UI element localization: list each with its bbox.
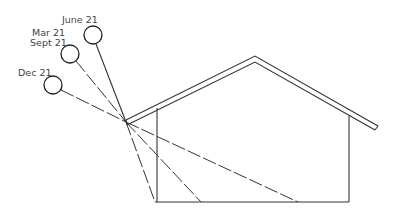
ray-dec-lower [126,122,298,202]
label-dec-21: Dec 21 [18,67,52,78]
label-june-21: June 21 [61,14,98,25]
ray-dec-upper [61,90,126,122]
roof-end-cap [375,126,378,130]
sun-icon-equinox [61,45,79,63]
sun-icon-june [84,26,102,44]
label-sept-21: Sept 21 [30,37,67,48]
sun-icon-december [44,76,62,94]
eave-cap [126,120,127,125]
sun-angle-diagram: June 21 Mar 21 Sept 21 Dec 21 [0,0,393,215]
sun-rays [61,44,298,202]
ray-equinox-upper [76,61,126,122]
roof-inner [127,62,375,130]
ray-equinox-lower [126,122,201,202]
ray-june-upper [96,44,126,122]
roof-outer [126,56,378,126]
